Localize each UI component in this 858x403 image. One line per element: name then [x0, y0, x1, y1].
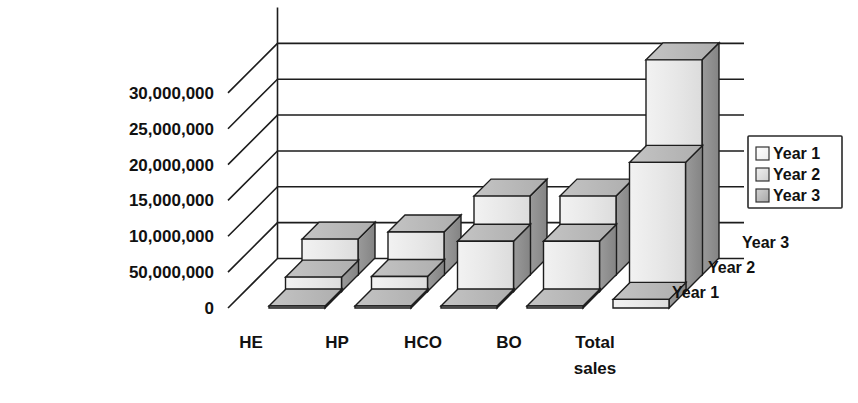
- bar-3d[interactable]: [441, 289, 514, 308]
- category-axis-label: sales: [574, 359, 617, 378]
- legend-label: Year 1: [773, 145, 820, 162]
- bars-layer: [269, 43, 719, 308]
- category-axis-label: HCO: [404, 333, 442, 352]
- bar-3d[interactable]: [355, 289, 428, 308]
- legend-swatch: [756, 147, 769, 160]
- legend-item[interactable]: Year 3: [756, 187, 820, 204]
- legend-label: Year 2: [773, 166, 820, 183]
- bar-3d[interactable]: [286, 260, 359, 291]
- chart-container: 30,000,00025,000,00020,000,00015,000,000…: [0, 0, 858, 403]
- bar-3d[interactable]: [458, 224, 531, 291]
- legend[interactable]: Year 1Year 2Year 3: [748, 136, 842, 208]
- legend-label: Year 3: [773, 187, 820, 204]
- depth-axis-label: Year 1: [672, 284, 719, 301]
- y-axis-tick-label: 0: [205, 299, 214, 318]
- bar-3d[interactable]: [527, 289, 600, 308]
- category-axis-label: BO: [496, 333, 522, 352]
- y-axis-tick-label: 25,000,000: [129, 120, 214, 139]
- bar-3d[interactable]: [544, 224, 617, 291]
- bar-3d[interactable]: [630, 145, 703, 291]
- y-axis-tick-labels: 30,000,00025,000,00020,000,00015,000,000…: [129, 84, 214, 318]
- legend-item[interactable]: Year 2: [756, 166, 820, 183]
- y-axis-tick-label: 50,000,000: [129, 263, 214, 282]
- category-axis-labels: HEHPHCOBOTotalsales: [239, 333, 616, 378]
- three-d-bar-chart: 30,000,00025,000,00020,000,00015,000,000…: [0, 0, 858, 403]
- bar-3d[interactable]: [269, 289, 342, 308]
- depth-axis-label: Year 2: [708, 259, 755, 276]
- y-axis-tick-label: 15,000,000: [129, 191, 214, 210]
- category-axis-label: HE: [239, 333, 263, 352]
- legend-item[interactable]: Year 1: [756, 145, 820, 162]
- y-axis-tick-label: 30,000,000: [129, 84, 214, 103]
- depth-axis-label: Year 3: [742, 234, 789, 251]
- legend-swatch: [756, 189, 769, 202]
- y-axis-tick-label: 20,000,000: [129, 156, 214, 175]
- category-axis-label: HP: [325, 333, 349, 352]
- y-axis-tick-label: 10,000,000: [129, 227, 214, 246]
- bar-3d[interactable]: [372, 259, 445, 291]
- legend-swatch: [756, 168, 769, 181]
- category-axis-label: Total: [575, 333, 614, 352]
